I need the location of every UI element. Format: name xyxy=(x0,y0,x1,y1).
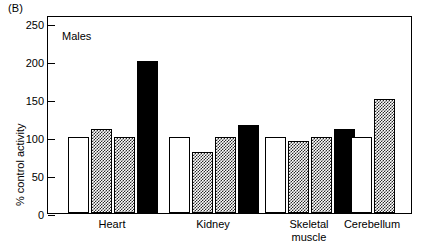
bar-cerebellum-0 xyxy=(351,137,372,213)
y-tick-label-150: 150 xyxy=(26,94,44,108)
plot-frame: Males 050100150200250 xyxy=(47,16,412,214)
bar-heart-0 xyxy=(68,137,89,213)
y-tick-label-100: 100 xyxy=(26,132,44,146)
bar-kidney-2 xyxy=(215,137,236,213)
bar-cerebellum-1 xyxy=(374,99,395,213)
panel-letter: (B) xyxy=(8,2,23,15)
y-axis-title: % control activity xyxy=(14,123,26,206)
bar-layer xyxy=(48,17,411,213)
bar-kidney-3 xyxy=(238,125,259,213)
x-axis-label-heart: Heart xyxy=(62,218,162,231)
bar-kidney-0 xyxy=(169,137,190,213)
figure-panel-b: (B) % control activity Males 05010015020… xyxy=(0,0,422,251)
bar-heart-2 xyxy=(114,137,135,213)
y-tick-label-50: 50 xyxy=(32,170,44,184)
x-axis-label-cerebellum: Cerebellum xyxy=(322,218,422,231)
bar-skeletal-muscle-2 xyxy=(311,137,332,213)
bar-skeletal-muscle-0 xyxy=(265,137,286,213)
y-tick-label-0: 0 xyxy=(38,208,44,222)
x-axis-label-kidney: Kidney xyxy=(163,218,263,231)
bar-skeletal-muscle-1 xyxy=(288,141,309,213)
y-tick-label-200: 200 xyxy=(26,56,44,70)
bar-heart-1 xyxy=(91,129,112,213)
bar-heart-3 xyxy=(137,61,158,213)
y-tick-0: 0 xyxy=(48,215,55,216)
y-tick-label-250: 250 xyxy=(26,18,44,32)
bar-kidney-1 xyxy=(192,152,213,213)
